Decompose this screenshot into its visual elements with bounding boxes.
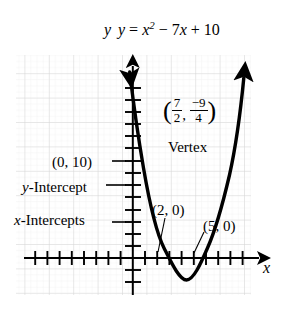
vertex-y-numerator: −9	[190, 96, 208, 110]
y-intercept-point-label: (0, 10)	[52, 155, 92, 170]
x-intercepts-var: x	[14, 212, 21, 228]
vertex-y-denominator: 4	[190, 110, 208, 125]
equation-x-term: x	[180, 21, 187, 38]
x-intercept-left-label: (2, 0)	[152, 203, 185, 218]
x-axis-label: x	[263, 260, 270, 276]
equation-title: y = x2 − 7x + 10	[118, 22, 220, 38]
equation-x-squared: x2	[142, 21, 155, 38]
vertex-coordinate-label: (72, −94)	[163, 96, 216, 124]
vertex-x-fraction: 72	[172, 96, 183, 124]
y-intercept-var: y	[22, 179, 29, 195]
x-intercepts-suffix: -Intercepts	[21, 212, 85, 228]
vertex-y-fraction: −94	[190, 96, 208, 124]
y-intercept-text-label: y-Intercept	[22, 180, 87, 195]
vertex-text-label: Vertex	[168, 140, 207, 155]
vertex-x-numerator: 7	[172, 96, 183, 110]
vertex-close-paren: )	[208, 98, 217, 124]
vertex-comma: ,	[182, 108, 190, 123]
parabola-graph-figure: y y = x2 − 7x + 10 x (72, −94) Vertex (0…	[0, 0, 282, 317]
equation-minus-term: − 7	[155, 21, 180, 38]
equation-eq-sign: =	[129, 21, 142, 38]
vertex-x-denominator: 2	[172, 110, 183, 125]
x-intercept-right-label: (5, 0)	[203, 219, 236, 234]
y-intercept-suffix: -Intercept	[29, 179, 87, 195]
vertex-open-paren: (	[163, 98, 172, 124]
equation-constant: + 10	[187, 21, 220, 38]
equation-lhs: y	[118, 21, 125, 38]
x-intercepts-text-label: x-Intercepts	[14, 213, 85, 228]
y-axis-label: y	[104, 22, 111, 38]
coordinate-plane-svg	[0, 0, 282, 317]
